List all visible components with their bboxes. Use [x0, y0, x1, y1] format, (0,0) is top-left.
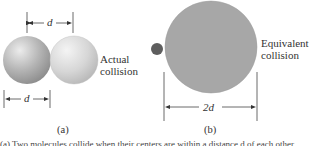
- equivalent-collision-label-line1: Equivalent: [261, 37, 309, 49]
- panel-b-label: (b): [204, 124, 216, 135]
- bottom-dimension-label: d: [24, 92, 30, 104]
- actual-collision-label-line2: collision: [100, 65, 138, 77]
- small-molecule-dot: [151, 43, 163, 55]
- 2d-dimension-label: 2d: [203, 101, 214, 113]
- figure-caption: (a) Two molecules collide when their cen…: [0, 139, 313, 146]
- molecule-left-sphere: [3, 36, 51, 84]
- equivalent-cross-section-circle: [165, 1, 257, 93]
- actual-collision-label-line1: Actual: [100, 53, 129, 65]
- molecule-right-sphere: [50, 36, 98, 84]
- equivalent-collision-label-line2: collision: [261, 49, 299, 61]
- top-dimension-label: d: [47, 16, 53, 28]
- panel-a-label: (a): [57, 124, 69, 135]
